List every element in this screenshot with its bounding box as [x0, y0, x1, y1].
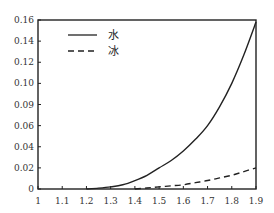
x-tick-label: 1.5 [152, 196, 167, 206]
legend: 水 冰 [68, 29, 119, 58]
legend-label-water: 水 [108, 29, 119, 42]
x-tick-label: 1.4 [128, 196, 143, 206]
x-tick-label: 1.6 [176, 196, 191, 206]
y-tick-label: 0.04 [14, 142, 34, 152]
x-tick-label: 1.8 [225, 196, 240, 206]
y-tick-label: 0.06 [14, 121, 34, 131]
x-tick-label: 1.7 [200, 196, 215, 206]
legend-label-ice: 冰 [108, 45, 119, 58]
y-tick-label: 0.16 [14, 15, 34, 25]
y-tick-label: 0 [28, 184, 34, 194]
y-tick-label: 0.09 [14, 100, 34, 110]
x-tick-label: 1 [35, 196, 41, 206]
plot-area [38, 20, 256, 189]
y-tick-label: 0.10 [14, 78, 34, 88]
line-chart: 11.11.21.31.41.51.61.71.81.9 00.020.040.… [0, 0, 274, 213]
x-tick-label: 1.9 [249, 196, 264, 206]
x-tick-label: 1.1 [55, 196, 69, 206]
y-tick-label: 0.12 [14, 57, 34, 67]
plot-border [38, 20, 256, 189]
x-tick-label: 1.2 [79, 196, 93, 206]
x-tick-label: 1.3 [104, 196, 119, 206]
y-tick-label: 0.02 [14, 163, 34, 173]
y-tick-label: 0.14 [14, 36, 34, 46]
y-axis: 00.020.040.060.090.100.120.140.16 [14, 15, 41, 194]
